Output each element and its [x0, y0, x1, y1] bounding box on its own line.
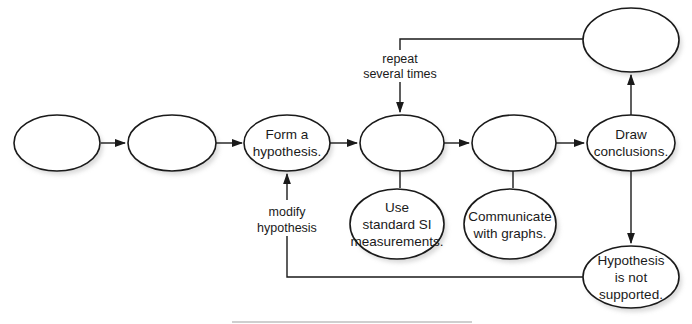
node-blank-7	[583, 8, 679, 72]
svg-text:conclusions.: conclusions.	[594, 144, 668, 159]
svg-text:Use: Use	[385, 200, 409, 215]
node-draw-conclusions: Draw conclusions.	[587, 115, 675, 171]
node-form-hypothesis: Form a hypothesis.	[244, 115, 330, 171]
node-blank-4	[360, 115, 444, 171]
svg-text:with graphs.: with graphs.	[473, 226, 547, 241]
node-blank-5	[472, 115, 556, 171]
svg-text:Communicate: Communicate	[468, 209, 551, 224]
node-communicate-graphs: Communicate with graphs.	[464, 189, 556, 259]
node-blank-2	[128, 115, 216, 171]
edge-n7-n4-upper	[400, 39, 583, 50]
footer-rule	[232, 321, 472, 323]
modify-label-line2: hypothesis	[257, 221, 317, 235]
svg-text:Form a: Form a	[266, 127, 309, 142]
svg-text:Draw: Draw	[615, 127, 647, 142]
node-use-si-measurements: Use standard SI measurements.	[350, 189, 444, 259]
repeat-label-line1: repeat	[382, 52, 418, 66]
node-hypothesis-not-supported: Hypothesis is not supported.	[583, 246, 679, 308]
svg-text:measurements.: measurements.	[350, 234, 443, 249]
svg-text:Hypothesis: Hypothesis	[598, 253, 665, 268]
svg-text:hypothesis.: hypothesis.	[253, 144, 321, 159]
node-shadows	[17, 12, 682, 312]
svg-text:is not: is not	[615, 270, 648, 285]
nodes: Form a hypothesis. Draw conclusions. Use…	[14, 8, 679, 308]
repeat-label-line2: several times	[363, 67, 437, 81]
scientific-method-diagram: repeat several times modify hypothesis F…	[0, 0, 692, 324]
svg-text:standard SI: standard SI	[362, 217, 431, 232]
modify-label-line1: modify	[269, 205, 307, 219]
node-blank-1	[14, 115, 100, 171]
svg-text:supported.: supported.	[599, 287, 663, 302]
